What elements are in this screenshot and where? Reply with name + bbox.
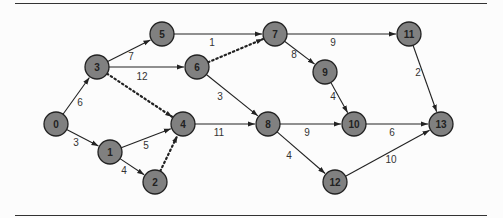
edge-weight-label: 9 — [304, 127, 310, 138]
edge-weight-label: 12 — [136, 71, 148, 82]
edge-weight-label: 3 — [217, 91, 223, 102]
node-label: 7 — [272, 29, 278, 40]
node-label: 9 — [322, 67, 328, 78]
edge-weight-label: 1 — [209, 37, 215, 48]
node-0: 0 — [44, 112, 68, 136]
node-label: 12 — [329, 177, 341, 188]
node-label: 3 — [94, 62, 100, 73]
node-label: 6 — [194, 62, 200, 73]
edge-weight-label: 4 — [286, 150, 292, 161]
edge-7-9 — [285, 41, 315, 64]
network-diagram: 63547121113984946102 012345678910111213 — [0, 0, 503, 218]
node-12: 12 — [323, 170, 347, 194]
edge-weight-label: 8 — [291, 49, 297, 60]
node-10: 10 — [342, 112, 366, 136]
edge-8-12 — [277, 132, 325, 174]
edge-weight-label: 4 — [330, 91, 336, 102]
edge-0-1 — [67, 130, 99, 146]
node-5: 5 — [150, 22, 174, 46]
node-1: 1 — [98, 140, 122, 164]
node-label: 5 — [159, 29, 165, 40]
node-4: 4 — [171, 112, 195, 136]
node-3: 3 — [85, 55, 109, 79]
node-11: 11 — [397, 22, 421, 46]
node-7: 7 — [263, 22, 287, 46]
node-label: 10 — [348, 119, 360, 130]
edge-weight-label: 5 — [143, 140, 149, 151]
node-label: 13 — [435, 119, 447, 130]
node-13: 13 — [429, 112, 453, 136]
node-2: 2 — [143, 170, 167, 194]
edge-weight-label: 7 — [128, 51, 134, 62]
edge-weight-label: 6 — [77, 97, 83, 108]
edge-weight-label: 11 — [214, 127, 225, 138]
node-6: 6 — [185, 55, 209, 79]
edge-weight-label: 6 — [389, 127, 395, 138]
edge-weight-label: 10 — [385, 154, 397, 165]
node-label: 4 — [180, 119, 186, 130]
edge-6-7 — [208, 39, 263, 62]
edge-labels-layer: 63547121113984946102 — [73, 37, 421, 176]
node-8: 8 — [256, 112, 280, 136]
edge-weight-label: 9 — [330, 37, 336, 48]
edge-weight-label: 2 — [415, 67, 421, 78]
edge-weight-label: 3 — [73, 137, 79, 148]
edge-2-4 — [160, 136, 177, 171]
node-label: 8 — [265, 119, 271, 130]
edge-6-8 — [206, 75, 258, 116]
edge-0-3 — [63, 78, 89, 115]
node-9: 9 — [313, 60, 337, 84]
node-label: 1 — [107, 147, 113, 158]
edge-11-13 — [413, 45, 437, 111]
node-label: 11 — [404, 29, 415, 40]
node-label: 0 — [53, 119, 59, 130]
edge-weight-label: 4 — [121, 165, 127, 176]
node-label: 2 — [152, 177, 158, 188]
